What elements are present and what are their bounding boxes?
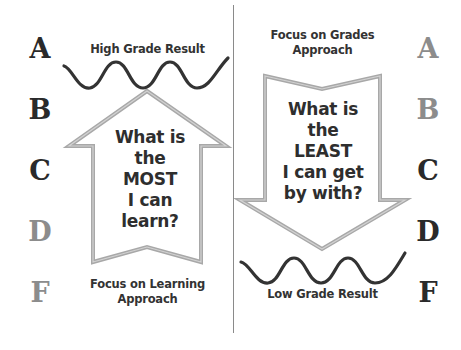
right-grade-c: C [413, 156, 443, 186]
up-arrow-line: What is [95, 127, 205, 148]
left-grade-c: C [25, 156, 55, 186]
low-grade-wave-icon [241, 253, 405, 283]
left-grade-b: B [25, 95, 55, 125]
down-arrow-question: What is the LEAST I can get by with? [267, 99, 379, 204]
panel-divider [233, 5, 234, 333]
focus-on-learning-line: Approach [80, 292, 215, 307]
focus-on-grades-label: Focus on Grades Approach [255, 28, 390, 58]
low-grade-result-label: Low Grade Result [255, 287, 390, 302]
focus-on-grades-line: Approach [255, 43, 390, 58]
up-arrow-question: What is the MOST I can learn? [95, 127, 205, 232]
right-grade-b: B [413, 95, 443, 125]
right-grade-a: A [413, 34, 443, 64]
high-grade-result-label: High Grade Result [80, 42, 215, 57]
down-arrow-line: I can get [267, 162, 379, 183]
diagram-graphics [0, 0, 461, 350]
down-arrow-line: What is [267, 99, 379, 120]
up-arrow-line: MOST [95, 169, 205, 190]
down-arrow-line: by with? [267, 183, 379, 204]
high-grade-wave-icon [64, 58, 228, 88]
right-grade-f: F [413, 278, 443, 308]
left-grade-a: A [25, 34, 55, 64]
down-arrow-line: the [267, 120, 379, 141]
right-grade-d: D [413, 217, 443, 247]
up-arrow-line: learn? [95, 211, 205, 232]
left-grade-d: D [25, 217, 55, 247]
left-grade-f: F [25, 278, 55, 308]
focus-on-learning-line: Focus on Learning [80, 277, 215, 292]
focus-on-learning-label: Focus on Learning Approach [80, 277, 215, 307]
up-arrow-line: I can [95, 190, 205, 211]
focus-on-grades-line: Focus on Grades [255, 28, 390, 43]
down-arrow-line: LEAST [267, 141, 379, 162]
up-arrow-line: the [95, 148, 205, 169]
